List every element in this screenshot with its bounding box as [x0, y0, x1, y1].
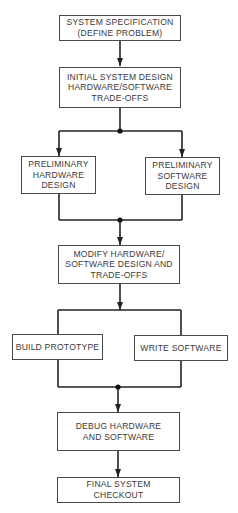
node-text: WRITE SOFTWARE	[140, 343, 221, 354]
node-system-specification: SYSTEM SPECIFICATION (DEFINE PROBLEM)	[59, 15, 181, 41]
node-modify-design: MODIFY HARDWARE/ SOFTWARE DESIGN AND TRA…	[58, 245, 180, 284]
node-text: MODIFY HARDWARE/	[73, 249, 164, 260]
flowchart-canvas: SYSTEM SPECIFICATION (DEFINE PROBLEM) IN…	[0, 0, 238, 513]
node-text: DEBUG HARDWARE	[76, 421, 162, 432]
node-text: TRADE-OFFS	[92, 93, 149, 104]
node-text: DESIGN	[165, 181, 199, 192]
node-text: TRADE-OFFS	[91, 270, 148, 281]
node-text: PRELIMINARY	[152, 160, 212, 171]
node-text: HARDWARE/SOFTWARE	[68, 82, 172, 93]
node-text: FINAL SYSTEM	[86, 479, 150, 490]
node-preliminary-software-design: PRELIMINARY SOFTWARE DESIGN	[145, 157, 220, 195]
node-text: INITIAL SYSTEM DESIGN	[67, 72, 173, 83]
node-text: CHECKOUT	[94, 490, 144, 501]
node-text: AND SOFTWARE	[83, 432, 154, 443]
node-preliminary-hardware-design: PRELIMINARY HARDWARE DESIGN	[21, 156, 96, 194]
node-text: SYSTEM SPECIFICATION	[67, 17, 174, 28]
node-text: PRELIMINARY	[28, 159, 88, 170]
node-write-software: WRITE SOFTWARE	[134, 335, 228, 361]
node-text: (DEFINE PROBLEM)	[78, 28, 163, 39]
node-text: HARDWARE	[33, 170, 84, 181]
junction-dot-merge-1	[117, 217, 122, 222]
node-text: BUILD PROTOTYPE	[16, 342, 100, 353]
node-text: SOFTWARE DESIGN AND	[65, 259, 173, 270]
junction-dot-merge-2	[115, 384, 120, 389]
node-initial-system-design: INITIAL SYSTEM DESIGN HARDWARE/SOFTWARE …	[59, 67, 181, 108]
node-build-prototype: BUILD PROTOTYPE	[12, 334, 103, 360]
node-final-system-checkout: FINAL SYSTEM CHECKOUT	[57, 477, 180, 503]
junction-dot-split-1	[117, 128, 122, 133]
node-text: DESIGN	[41, 180, 75, 191]
node-debug-hardware-software: DEBUG HARDWARE AND SOFTWARE	[57, 412, 180, 451]
node-text: SOFTWARE	[158, 171, 208, 182]
